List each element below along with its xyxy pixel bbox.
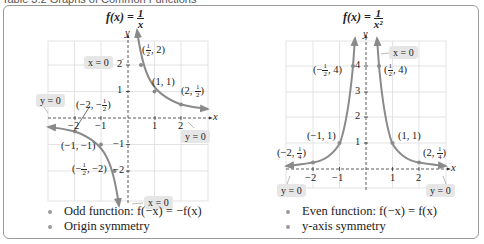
- left-point-label: (1, 1): [152, 76, 175, 87]
- asymptote-tag-horizontal: y = 0: [181, 130, 210, 143]
- tag-text: y = 0: [281, 185, 302, 196]
- bullet-text: y-axis symmetry: [302, 219, 386, 233]
- right-graph-axes: [286, 35, 450, 190]
- left-y-tick: −1: [113, 138, 124, 149]
- bullet-icon: [48, 210, 52, 214]
- left-notes: Odd function: f(−x) = −f(x) Origin symme…: [48, 204, 202, 234]
- right-notes: Even function: f(−x) = f(x) y-axis symme…: [286, 204, 437, 234]
- bullet-icon: [286, 210, 290, 214]
- left-y-axis-label: y: [125, 27, 130, 38]
- right-x-tick: −2: [305, 172, 316, 183]
- bullet-icon: [48, 225, 52, 229]
- tag-text: x = 0: [393, 47, 414, 58]
- right-point-label: (−12, 4): [313, 63, 342, 78]
- right-y-axis-label: y: [363, 28, 368, 39]
- left-point-label: (12, 2): [142, 43, 165, 58]
- left-x-tick: −2: [68, 120, 79, 131]
- left-graph-axes: [48, 35, 212, 203]
- tag-text: y = 0: [430, 185, 451, 196]
- right-point-label: (1, 1): [398, 130, 421, 141]
- right-x-axis-label: x: [451, 162, 456, 173]
- right-y-tick: 4: [355, 59, 360, 70]
- asymptote-tag-horizontal: y = 0: [426, 184, 455, 197]
- right-point-label: (−2, 14): [277, 146, 306, 161]
- left-x-tick: 1: [152, 120, 157, 131]
- left-y-tick: −2: [113, 164, 124, 175]
- left-point-label: (−2, −12): [76, 98, 111, 113]
- right-y-tick: 3: [355, 85, 360, 96]
- asymptote-tag-horizontal: y = 0: [36, 94, 65, 107]
- left-x-axis-label: x: [213, 111, 218, 122]
- right-x-tick: 1: [390, 172, 395, 183]
- bullet-item: Even function: f(−x) = f(x): [286, 204, 437, 219]
- bullet-item: y-axis symmetry: [286, 219, 437, 234]
- bullet-text: Odd function: f(−x) = −f(x): [64, 204, 202, 218]
- asymptote-tag-vertical: x = 0: [84, 56, 113, 69]
- bullet-item: Origin symmetry: [48, 219, 202, 234]
- left-y-tick: 2: [117, 58, 122, 69]
- bullet-icon: [286, 225, 290, 229]
- right-y-tick: 2: [355, 110, 360, 121]
- left-point-label: (−1, −1): [61, 140, 96, 151]
- right-point-label: (12, 4): [384, 63, 407, 78]
- left-point-label: (−12, −2): [72, 162, 107, 177]
- bullet-item: Odd function: f(−x) = −f(x): [48, 204, 202, 219]
- bullet-text: Origin symmetry: [64, 219, 150, 233]
- right-x-tick: −1: [332, 172, 343, 183]
- left-y-tick: 1: [117, 84, 122, 95]
- left-x-tick: −1: [95, 120, 106, 131]
- right-x-tick: 2: [416, 172, 421, 183]
- right-point-label: (−1, 1): [307, 130, 336, 141]
- right-y-tick: 1: [355, 136, 360, 147]
- tag-text: y = 0: [185, 131, 206, 142]
- bullet-text: Even function: f(−x) = f(x): [302, 204, 437, 218]
- tag-text: x = 0: [88, 57, 109, 68]
- left-point-label: (2, 12): [181, 84, 204, 99]
- right-point-label: (2, 14): [423, 146, 446, 161]
- asymptote-tag-horizontal: y = 0: [277, 184, 306, 197]
- asymptote-tag-vertical: x = 0: [389, 46, 418, 59]
- tag-text: y = 0: [40, 95, 61, 106]
